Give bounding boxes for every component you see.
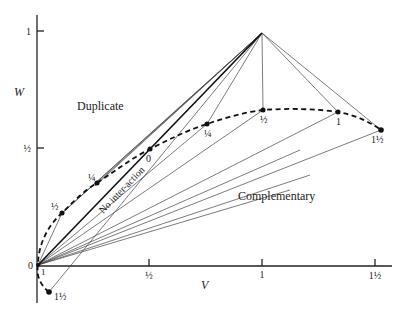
point-label: ¼ (204, 128, 212, 139)
point-label: 0 (146, 153, 151, 164)
y-tick-label-half: ½ (24, 143, 32, 154)
point-label: ½ (51, 201, 59, 212)
y-tick-label-1: 1 (26, 26, 31, 37)
region-label-complementary: Complementary (238, 189, 315, 203)
point-label: 1 (336, 116, 341, 127)
region-label-duplicate: Duplicate (77, 99, 124, 113)
origin-label: 0 (28, 260, 33, 271)
origin-point-label: 1 (41, 267, 46, 277)
point-label: ¼ (88, 172, 96, 183)
x-tick-label-half: ½ (145, 270, 153, 281)
y-axis-label: W (14, 85, 25, 99)
point-label: ½ (260, 114, 268, 125)
apex-lines (49, 33, 381, 292)
diagram-figure: W V 1 ½ ½ 1 1½ 0 1 Duplicate Complementa… (0, 0, 413, 321)
x-axis-label: V (201, 278, 210, 292)
x-tick-label-1half: 1½ (369, 270, 382, 281)
point-label: 1½ (371, 134, 384, 145)
x-tick-label-1: 1 (260, 269, 265, 280)
point-label: 1½ (54, 291, 67, 302)
